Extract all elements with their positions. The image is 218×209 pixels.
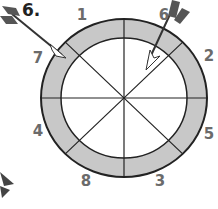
ring-label-8: 8 [81,174,91,189]
segment-dividers [41,19,207,177]
ring-label-6: 6 [159,8,169,23]
ring-label-3: 3 [155,174,165,189]
ring-label-5: 5 [204,127,214,142]
dartboard-diagram [0,0,218,209]
dart-lower-left-icon [0,172,14,198]
ring-label-1: 1 [77,8,87,23]
ring-label-4: 4 [33,124,43,139]
ring-label-2: 2 [204,49,214,64]
ring-label-7: 7 [33,51,43,66]
dartboard-puzzle: 6. 1 6 [0,0,218,209]
